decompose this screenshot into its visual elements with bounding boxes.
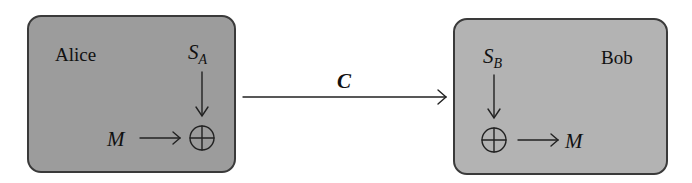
alice-message-arrow-icon	[140, 132, 180, 144]
channel-arrow-icon	[243, 90, 446, 104]
bob-key-arrow-icon	[488, 75, 500, 118]
bob-xor-icon	[482, 128, 506, 152]
diagram-arrows	[0, 0, 692, 183]
alice-xor-icon	[190, 126, 214, 150]
alice-key-arrow-icon	[196, 72, 208, 116]
bob-message-arrow-icon	[518, 134, 558, 146]
